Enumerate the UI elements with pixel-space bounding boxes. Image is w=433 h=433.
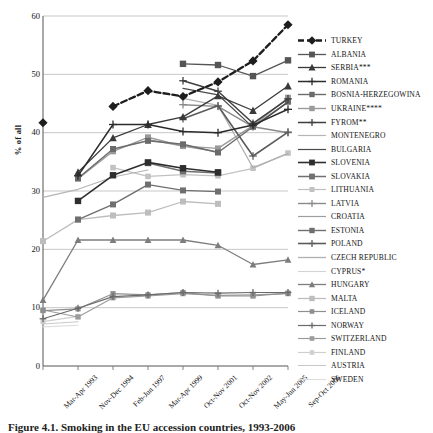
legend-item[interactable]: FINLAND	[297, 346, 433, 360]
legend-marker-icon	[297, 211, 327, 222]
legend-item[interactable]: SERBIA***	[297, 61, 433, 75]
x-axis-ticks: Mar-Apr 1993Nov-Dec 1994Feb-Jun 1997Mar-…	[0, 0, 295, 432]
chart-legend: TURKEYALBANIASERBIA***ROMANIABOSNIA-HERZ…	[297, 34, 433, 386]
legend-marker-icon	[297, 306, 327, 317]
legend-marker-icon	[297, 293, 327, 304]
legend-item[interactable]: NORWAY	[297, 318, 433, 332]
legend-label: SLOVENIA	[331, 158, 370, 167]
legend-item[interactable]: TURKEY	[297, 34, 433, 48]
legend-label: MALTA	[331, 294, 357, 303]
legend-item[interactable]: SLOVENIA	[297, 156, 433, 170]
legend-marker-icon	[297, 347, 327, 358]
chart-plot-area: % of all 0102030405060 Mar-Apr 1993Nov-D…	[0, 0, 295, 432]
legend-item[interactable]: AUSTRIA	[297, 359, 433, 373]
legend-marker-icon	[297, 103, 327, 114]
legend-item[interactable]: UKRAINE****	[297, 102, 433, 116]
legend-marker-icon	[297, 76, 327, 87]
x-tick-label: Feb-Jun 1997	[131, 373, 167, 409]
legend-item[interactable]: BOSNIA-HERZEGOWINA	[297, 88, 433, 102]
figure-caption: Figure 4.1. Smoking in the EU accession …	[8, 421, 428, 433]
legend-item[interactable]: HUNGARY	[297, 278, 433, 292]
legend-label: SWEDEN	[331, 375, 364, 384]
legend-marker-icon	[297, 62, 327, 73]
legend-label: TURKEY	[331, 36, 363, 45]
legend-label: MONTENEGRO	[331, 131, 386, 140]
legend-marker-icon	[297, 117, 327, 128]
legend-label: LITHUANIA	[331, 185, 374, 194]
legend-item[interactable]: SWEDEN	[297, 373, 433, 387]
legend-marker-icon	[297, 320, 327, 331]
legend-item[interactable]: SWITZERLAND	[297, 332, 433, 346]
legend-marker-icon	[297, 157, 327, 168]
legend-marker-icon	[297, 171, 327, 182]
legend-label: ICELAND	[331, 307, 365, 316]
legend-marker-icon	[297, 279, 327, 290]
legend-label: ESTONIA	[331, 226, 364, 235]
legend-item[interactable]: ICELAND	[297, 305, 433, 319]
legend-label: FINLAND	[331, 348, 365, 357]
legend-label: CZECH REPUBLIC	[331, 253, 397, 262]
legend-marker-icon	[297, 360, 327, 371]
legend-item[interactable]: FYROM**	[297, 115, 433, 129]
legend-label: HUNGARY	[331, 280, 370, 289]
x-tick-label: Oct-Nov 2001	[202, 373, 239, 410]
legend-marker-icon	[297, 374, 327, 385]
legend-item[interactable]: LATVIA	[297, 197, 433, 211]
legend-marker-icon	[297, 252, 327, 263]
legend-marker-icon	[297, 238, 327, 249]
x-tick-label: Oct-Nov 2002	[237, 373, 274, 410]
legend-marker-icon	[297, 49, 327, 60]
legend-item[interactable]: ALBANIA	[297, 48, 433, 62]
legend-label: BOSNIA-HERZEGOWINA	[331, 90, 421, 99]
legend-marker-icon	[297, 225, 327, 236]
legend-item[interactable]: MONTENEGRO	[297, 129, 433, 143]
legend-item[interactable]: ROMANIA	[297, 75, 433, 89]
legend-marker-icon	[297, 266, 327, 277]
legend-item[interactable]: CYPRUS*	[297, 264, 433, 278]
legend-marker-icon	[297, 130, 327, 141]
x-tick-label: Mar-Apr 1993	[62, 373, 99, 410]
legend-marker-icon	[297, 144, 327, 155]
legend-item[interactable]: SLOVAKIA	[297, 169, 433, 183]
x-tick-label: Mar-Apr 1999	[167, 373, 204, 410]
legend-label: FYROM**	[331, 118, 367, 127]
legend-label: BULGARIA	[331, 145, 371, 154]
legend-item[interactable]: ESTONIA	[297, 224, 433, 238]
legend-item[interactable]: CROATIA	[297, 210, 433, 224]
legend-item[interactable]: LITHUANIA	[297, 183, 433, 197]
legend-item[interactable]: CZECH REPUBLIC	[297, 251, 433, 265]
legend-label: SLOVAKIA	[331, 172, 370, 181]
legend-label: UKRAINE****	[331, 104, 382, 113]
legend-marker-icon	[297, 35, 327, 46]
x-tick-label: Nov-Dec 1994	[97, 373, 135, 411]
legend-label: ALBANIA	[331, 50, 366, 59]
legend-item[interactable]: POLAND	[297, 237, 433, 251]
legend-item[interactable]: MALTA	[297, 291, 433, 305]
legend-item[interactable]: BULGARIA	[297, 142, 433, 156]
legend-marker-icon	[297, 333, 327, 344]
legend-label: AUSTRIA	[331, 361, 365, 370]
legend-label: ROMANIA	[331, 77, 368, 86]
legend-marker-icon	[297, 198, 327, 209]
legend-label: SWITZERLAND	[331, 334, 387, 343]
legend-label: SERBIA***	[331, 63, 371, 72]
legend-label: CYPRUS*	[331, 267, 365, 276]
legend-marker-icon	[297, 89, 327, 100]
legend-label: CROATIA	[331, 212, 365, 221]
legend-label: NORWAY	[331, 321, 364, 330]
legend-marker-icon	[297, 184, 327, 195]
legend-label: POLAND	[331, 239, 363, 248]
legend-label: LATVIA	[331, 199, 359, 208]
